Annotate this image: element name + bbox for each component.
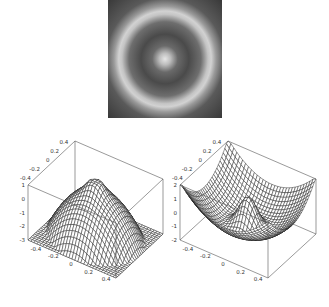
front-axis-tick-label: -0.2 [48, 253, 59, 259]
front-axis-tick-label: -0.4 [30, 246, 41, 252]
back-axis-tick-label: -0.2 [29, 166, 40, 172]
back-axis-tick-label: 0.4 [212, 139, 221, 145]
back-axis-tick-label: 0 [46, 157, 50, 163]
front-axis-tick-label: 0.2 [236, 269, 245, 275]
figure: -0.4-0.200.20.410-1-2-3-0.4-0.200.20.4 -… [0, 0, 329, 307]
heatmap-image [108, 0, 222, 118]
z-axis-tick-label: -1 [172, 223, 177, 229]
z-axis-tick-label: 0 [22, 196, 26, 202]
wireframe-mesh [28, 179, 163, 278]
back-axis-tick-label: -0.4 [172, 175, 183, 181]
box-edge [180, 240, 268, 278]
box-edge [75, 141, 163, 179]
z-axis-tick-label: -2 [20, 223, 25, 229]
back-axis-tick-label: 0.2 [50, 148, 59, 154]
z-axis-tick-label: -1 [20, 210, 25, 216]
heatmap-panel [108, 0, 222, 118]
front-axis-tick-label: -0.4 [182, 246, 193, 252]
box-edge [268, 234, 316, 278]
back-axis-tick-label: -0.4 [20, 175, 31, 181]
front-axis-tick-label: 0 [69, 261, 73, 267]
front-axis-tick-label: -0.2 [200, 253, 211, 259]
back-axis-tick-label: 0.4 [60, 139, 69, 145]
surface-plot-right: -0.4-0.200.20.4210-1-2-0.4-0.200.20.4 [172, 139, 316, 282]
back-axis-tick-label: 0.2 [203, 148, 212, 154]
front-axis-tick-label: 0.4 [254, 276, 263, 282]
front-axis-tick-label: 0.2 [84, 269, 93, 275]
front-axis-tick-label: 0 [221, 261, 225, 267]
front-axis-tick-label: 0.4 [102, 276, 111, 282]
back-axis-tick-label: 0 [199, 157, 203, 163]
z-axis-tick-label: 2 [174, 182, 178, 188]
z-axis-tick-label: -2 [172, 237, 177, 243]
z-axis-tick-label: 1 [22, 182, 26, 188]
back-axis-tick-label: -0.2 [182, 166, 193, 172]
z-axis-tick-label: -3 [20, 237, 26, 243]
z-axis-tick-label: 0 [174, 210, 178, 216]
surface-plot-left: -0.4-0.200.20.410-1-2-3-0.4-0.200.20.4 [20, 139, 163, 282]
z-axis-tick-label: 1 [174, 196, 178, 202]
